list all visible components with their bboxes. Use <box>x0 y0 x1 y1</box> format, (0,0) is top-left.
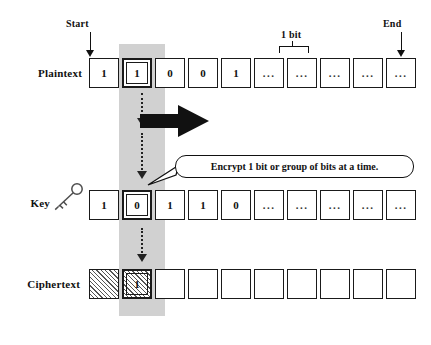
key-cell: ... <box>353 190 383 220</box>
end-label: End <box>383 18 401 29</box>
ciphertext-cell <box>254 269 284 299</box>
plaintext-cell: ... <box>287 58 317 88</box>
key-cell-value: 1 <box>101 199 107 211</box>
plaintext-cell-value: 1 <box>101 67 107 79</box>
key-row: 10110............... <box>89 190 416 220</box>
ciphertext-cell <box>221 269 251 299</box>
ciphertext-cell: 1 <box>122 269 152 299</box>
plaintext-cell-value: 0 <box>200 67 206 79</box>
row-label-plaintext: Plaintext <box>17 67 82 79</box>
ciphertext-cell <box>155 269 185 299</box>
plaintext-row: 11001............... <box>89 58 416 88</box>
plaintext-cell-value: 1 <box>134 67 140 79</box>
stream-direction-arrow <box>140 104 210 142</box>
end-arrow-line <box>401 32 402 52</box>
ciphertext-flow-arrowhead <box>137 254 147 262</box>
key-cell-ellipsis: ... <box>362 199 375 211</box>
key-cell-value: 1 <box>200 199 206 211</box>
plaintext-cell: 0 <box>155 58 185 88</box>
bit-bracket-stem <box>292 41 293 46</box>
bit-bracket <box>279 46 309 53</box>
plaintext-cell: 1 <box>122 58 152 88</box>
key-cell-ellipsis: ... <box>263 199 276 211</box>
plaintext-cell-value: 0 <box>167 67 173 79</box>
bit-bracket-label: 1 bit <box>281 29 301 40</box>
key-cell: ... <box>254 190 284 220</box>
ciphertext-cell-value: 1 <box>134 278 140 290</box>
key-flow-dash <box>141 133 143 173</box>
callout-text: Encrypt 1 bit or group of bits at a time… <box>211 161 378 172</box>
key-cell-ellipsis: ... <box>329 199 342 211</box>
key-cell-value: 0 <box>134 199 140 211</box>
start-arrow-line <box>90 32 91 52</box>
plaintext-cell: ... <box>320 58 350 88</box>
key-cell-value: 0 <box>233 199 239 211</box>
callout-box: Encrypt 1 bit or group of bits at a time… <box>175 155 414 178</box>
plaintext-cell-ellipsis: ... <box>263 67 276 79</box>
plaintext-cell: 0 <box>188 58 218 88</box>
key-cell: 0 <box>221 190 251 220</box>
plaintext-cell-value: 1 <box>233 67 239 79</box>
ciphertext-cell <box>89 269 119 299</box>
key-cell-ellipsis: ... <box>296 199 309 211</box>
end-arrow-head <box>397 50 405 57</box>
key-cell: 1 <box>188 190 218 220</box>
key-cell-inner-border: 0 <box>126 194 148 216</box>
plaintext-cell-ellipsis: ... <box>395 67 408 79</box>
start-arrow-head <box>86 50 94 57</box>
plaintext-cell-ellipsis: ... <box>329 67 342 79</box>
key-cell: 1 <box>89 190 119 220</box>
ciphertext-cell <box>353 269 383 299</box>
stream-cipher-diagram: Start End 1 bit Plaintext 11001.........… <box>0 0 431 345</box>
plaintext-cell-inner-border: 1 <box>126 62 148 84</box>
key-cell: 0 <box>122 190 152 220</box>
ciphertext-cell <box>188 269 218 299</box>
ciphertext-cell-inner-border: 1 <box>126 273 148 295</box>
row-label-key: Key <box>5 197 50 209</box>
key-cell: ... <box>320 190 350 220</box>
plaintext-cell: 1 <box>221 58 251 88</box>
key-cell: ... <box>386 190 416 220</box>
plaintext-cell-ellipsis: ... <box>362 67 375 79</box>
ciphertext-flow-dash <box>141 228 143 256</box>
ciphertext-cell <box>287 269 317 299</box>
ciphertext-row: 1 <box>89 269 416 299</box>
key-cell-ellipsis: ... <box>395 199 408 211</box>
plaintext-cell: ... <box>353 58 383 88</box>
key-cell-value: 1 <box>167 199 173 211</box>
plaintext-cell: 1 <box>89 58 119 88</box>
ciphertext-cell <box>320 269 350 299</box>
key-cell: 1 <box>155 190 185 220</box>
key-icon <box>52 182 86 216</box>
plaintext-cell: ... <box>386 58 416 88</box>
plaintext-cell-ellipsis: ... <box>296 67 309 79</box>
plaintext-cell: ... <box>254 58 284 88</box>
ciphertext-cell <box>386 269 416 299</box>
row-label-ciphertext: Ciphertext <box>8 278 80 290</box>
key-cell: ... <box>287 190 317 220</box>
start-label: Start <box>66 18 89 29</box>
